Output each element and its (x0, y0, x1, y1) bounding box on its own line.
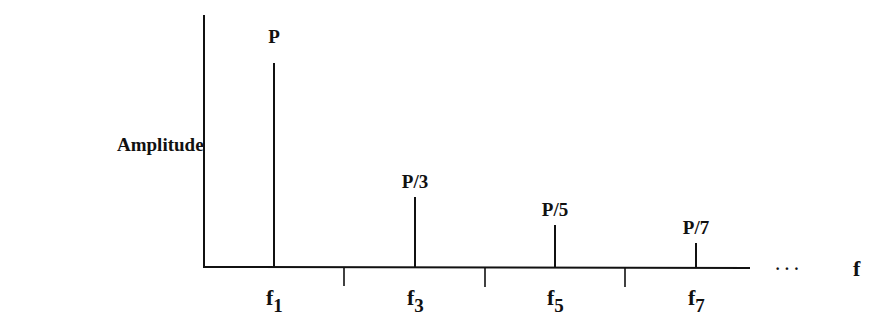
spike-label-p3: P/3 (402, 171, 428, 192)
spike-label-p7: P/7 (683, 217, 710, 238)
x-label-f3: f3 (407, 285, 424, 316)
x-label-f7: f7 (688, 285, 705, 316)
spike-label-p: P (268, 26, 280, 47)
y-axis-label: Amplitude (117, 134, 204, 155)
x-axis (203, 267, 750, 268)
x-axis-label: f (853, 256, 861, 281)
ellipsis: · · · (775, 260, 799, 277)
spectrum-diagram: P P/3 P/5 P/7 f1 f3 f5 f7 Amplitude · · … (0, 0, 895, 332)
x-label-f5: f5 (547, 285, 564, 316)
spike-label-p5: P/5 (542, 199, 568, 220)
x-label-f1: f1 (266, 285, 283, 316)
